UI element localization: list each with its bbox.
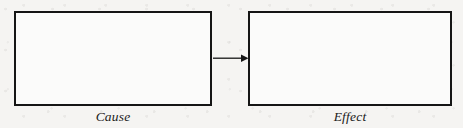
arrow-connector-cause-to-effect [212, 50, 250, 66]
diagram-canvas: Cause Effect [0, 0, 463, 128]
node-box-effect[interactable] [248, 11, 452, 106]
node-label-effect: Effect [248, 108, 452, 125]
node-label-cause: Cause [14, 108, 212, 125]
node-box-cause[interactable] [14, 11, 212, 106]
